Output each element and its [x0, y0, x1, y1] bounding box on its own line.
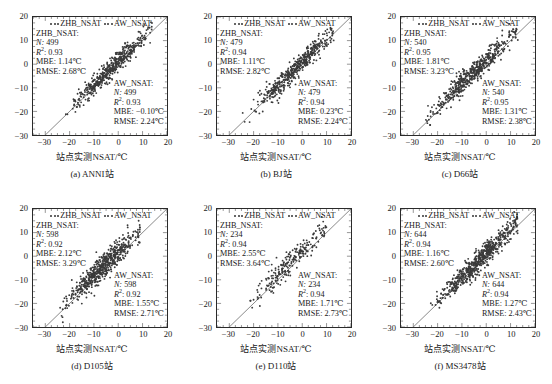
plot-area: ZHB_NSATAW_NSATZHB_NSAT:N: 479R2: 0.94MB…	[216, 16, 352, 136]
x-axis-title: 站点实测NSAT/℃	[368, 342, 552, 355]
y-tick-label: −20	[15, 108, 28, 116]
x-tick-label: 20	[164, 330, 173, 339]
legend: ZHB_NSATAW_NSAT	[405, 211, 533, 220]
y-tick-label: −30	[15, 132, 28, 140]
legend-marker-dots-icon	[288, 215, 296, 217]
x-tick-label: −20	[62, 330, 75, 339]
scatter-panel-d: −30−20−1001020ZHB_NSATAW_NSATZHB_NSAT:N:…	[0, 192, 184, 384]
y-tick-label: 0	[24, 252, 28, 260]
y-tick-label: −10	[15, 276, 28, 284]
stats-block-zhb: ZHB_NSAT:N: 499R2: 0.93MBE: 1.14℃RMSE: 2…	[36, 29, 86, 76]
stat-mbe: MBE: 1.81℃	[404, 57, 454, 66]
y-tick-label: −10	[15, 84, 28, 92]
y-tick-label: 20	[388, 12, 397, 20]
stats-block-aw: AW_NSAT:N: 598R2: 0.92MBE: 1.55℃RMSE: 2.…	[114, 271, 164, 318]
x-axis-tick-labels: −30−20−1001020	[400, 138, 536, 150]
legend-item-zhb_nsat[interactable]: ZHB_NSAT	[234, 211, 285, 220]
legend-item-aw_nsat[interactable]: AW_NSAT	[288, 211, 335, 220]
y-tick-label: −30	[15, 324, 28, 332]
legend-label: ZHB_NSAT	[244, 211, 285, 220]
legend-label: ZHB_NSAT	[428, 211, 469, 220]
x-tick-label: −30	[222, 138, 235, 147]
legend-item-aw_nsat[interactable]: AW_NSAT	[472, 19, 519, 28]
stat-r2: R2: 0.94	[298, 290, 348, 299]
x-axis-tick-labels: −30−20−1001020	[32, 330, 168, 342]
y-axis-tick-labels: −30−20−1001020	[0, 208, 30, 328]
legend-item-zhb_nsat[interactable]: ZHB_NSAT	[50, 211, 101, 220]
stat-r2: R2: 0.92	[36, 240, 86, 249]
x-tick-label: −10	[271, 330, 284, 339]
x-axis-title: 站点实测NSAT/℃	[184, 342, 368, 355]
stat-r2: R2: 0.93	[114, 98, 164, 107]
legend-label: AW_NSAT	[114, 19, 152, 28]
legend-marker-dots-icon	[50, 23, 58, 25]
panel-caption-a: (a) ANNI站	[0, 167, 184, 180]
stats-block-aw: AW_NSAT:N: 644R2: 0.94MBE: 1.27℃RMSE: 2.…	[482, 271, 532, 318]
y-tick-label: −30	[199, 132, 212, 140]
legend-label: AW_NSAT	[298, 211, 336, 220]
plot-area: ZHB_NSATAW_NSATZHB_NSAT:N: 234R2: 0.94MB…	[216, 208, 352, 328]
legend: ZHB_NSATAW_NSAT	[221, 19, 349, 28]
legend-label: ZHB_NSAT	[60, 211, 101, 220]
legend: ZHB_NSATAW_NSAT	[37, 19, 165, 28]
legend-item-aw_nsat[interactable]: AW_NSAT	[104, 211, 151, 220]
legend-item-aw_nsat[interactable]: AW_NSAT	[288, 19, 335, 28]
x-tick-label: −20	[62, 138, 75, 147]
stat-r2: R2: 0.92	[114, 290, 164, 299]
legend-label: AW_NSAT	[482, 211, 520, 220]
x-tick-label: −20	[246, 330, 259, 339]
y-axis-tick-labels: −30−20−1001020	[368, 16, 398, 136]
legend-label: ZHB_NSAT	[244, 19, 285, 28]
legend-marker-dots-icon	[234, 215, 242, 217]
legend-marker-dots-icon	[234, 23, 242, 25]
stat-mbe: MBE: 1.16℃	[404, 249, 454, 258]
stat-r2: R2: 0.94	[220, 48, 270, 57]
stats-block-zhb: ZHB_NSAT:N: 234R2: 0.94MBE: 2.55℃RMSE: 3…	[220, 221, 270, 268]
x-tick-label: 10	[139, 330, 148, 339]
x-tick-label: 10	[507, 330, 516, 339]
x-axis-title: 站点实测NSAT/℃	[0, 342, 184, 355]
legend-item-aw_nsat[interactable]: AW_NSAT	[104, 19, 151, 28]
stat-r2: R2: 0.95	[482, 98, 532, 107]
legend-item-zhb_nsat[interactable]: ZHB_NSAT	[418, 211, 469, 220]
x-tick-label: −30	[38, 330, 51, 339]
legend-item-zhb_nsat[interactable]: ZHB_NSAT	[418, 19, 469, 28]
x-axis-tick-labels: −30−20−1001020	[32, 138, 168, 150]
legend-item-zhb_nsat[interactable]: ZHB_NSAT	[50, 19, 101, 28]
legend: ZHB_NSATAW_NSAT	[221, 211, 349, 220]
stat-rmse: RMSE: 2.43℃	[482, 309, 532, 318]
panel-caption-e: (e) D110站	[184, 359, 368, 372]
stat-r2: R2: 0.95	[404, 48, 454, 57]
stat-mbe: MBE: 1.14℃	[36, 57, 86, 66]
x-tick-label: −20	[246, 138, 259, 147]
stat-mbe: MBE: 1.31℃	[482, 107, 532, 116]
stats-block-aw: AW_NSAT:N: 499R2: 0.93MBE: −0.10℃RMSE: 2…	[114, 79, 164, 126]
series-title: AW_NSAT:	[298, 271, 348, 280]
y-tick-label: 10	[204, 36, 213, 44]
stat-r2: R2: 0.94	[220, 240, 270, 249]
y-tick-label: −20	[383, 108, 396, 116]
stat-rmse: RMSE: 3.29℃	[36, 259, 86, 268]
y-tick-label: −30	[383, 324, 396, 332]
stat-r2: R2: 0.94	[482, 290, 532, 299]
legend-marker-dots-icon	[472, 23, 480, 25]
x-tick-label: 0	[300, 330, 304, 339]
x-tick-label: −10	[271, 138, 284, 147]
y-tick-label: 0	[208, 60, 212, 68]
legend-label: ZHB_NSAT	[428, 19, 469, 28]
panel-caption-c: (c) D66站	[368, 167, 552, 180]
x-axis-title: 站点实测NSAT/℃	[368, 150, 552, 163]
x-tick-label: −30	[222, 330, 235, 339]
stats-block-zhb: ZHB_NSAT:N: 540R2: 0.95MBE: 1.81℃RMSE: 3…	[404, 29, 454, 76]
series-title: ZHB_NSAT:	[36, 29, 86, 38]
stat-mbe: MBE: 2.12℃	[36, 249, 86, 258]
legend-item-aw_nsat[interactable]: AW_NSAT	[472, 211, 519, 220]
x-tick-label: −10	[455, 330, 468, 339]
legend-item-zhb_nsat[interactable]: ZHB_NSAT	[234, 19, 285, 28]
plot-area: ZHB_NSATAW_NSATZHB_NSAT:N: 499R2: 0.93MB…	[32, 16, 168, 136]
y-tick-label: −20	[383, 300, 396, 308]
y-tick-label: −10	[199, 84, 212, 92]
scatter-panel-a: −30−20−1001020ZHB_NSATAW_NSATZHB_NSAT:N:…	[0, 0, 184, 192]
y-tick-label: 20	[20, 204, 29, 212]
x-tick-label: −10	[87, 138, 100, 147]
